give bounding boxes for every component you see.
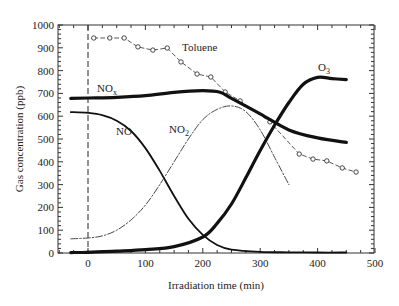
data-point-toluene — [340, 166, 344, 170]
y-tick-label: 400 — [38, 156, 55, 168]
series-line-o3 — [71, 77, 347, 252]
label-toluene: Toluene — [182, 41, 217, 53]
y-tick-label: 900 — [38, 42, 55, 54]
x-tick-label: 400 — [309, 257, 326, 269]
y-tick-label: 300 — [38, 179, 55, 191]
label-nox-main: NO — [97, 82, 113, 94]
data-point-toluene — [136, 45, 140, 49]
data-point-toluene — [108, 36, 112, 40]
label-no2-main: NO — [169, 123, 185, 135]
y-tick-label: 200 — [38, 201, 55, 213]
data-point-toluene — [209, 75, 213, 79]
data-point-toluene — [151, 48, 155, 52]
y-tick-label: 800 — [38, 65, 55, 77]
data-point-toluene — [195, 72, 199, 76]
label-o3: O3 — [318, 61, 330, 76]
y-tick-label: 0 — [49, 247, 55, 259]
x-tick-label: 200 — [195, 257, 212, 269]
y-tick-label: 500 — [38, 133, 55, 145]
y-tick-label: 600 — [38, 110, 55, 122]
series-group — [71, 36, 358, 253]
x-tick-label: 100 — [137, 257, 154, 269]
y-axis-label: Gas concentration (ppb) — [13, 86, 26, 193]
label-no: NO — [116, 125, 132, 137]
y-tick-label: 100 — [38, 224, 55, 236]
label-no2-sub: 2 — [185, 129, 189, 138]
data-point-toluene — [122, 36, 126, 40]
label-o3-sub: 3 — [326, 67, 330, 76]
gas-concentration-chart: 0100200300400500010020030040050060070080… — [0, 0, 399, 306]
label-nox: NOx — [97, 82, 117, 97]
x-tick-label: 0 — [85, 257, 91, 269]
x-axis-label: Irradiation time (min) — [168, 279, 264, 292]
y-tick-label: 1000 — [32, 19, 55, 31]
data-point-toluene — [179, 60, 183, 64]
data-point-toluene — [92, 36, 96, 40]
x-tick-label: 300 — [252, 257, 269, 269]
data-point-toluene — [311, 157, 315, 161]
label-nox-sub: x — [113, 88, 117, 97]
label-no2: NO2 — [169, 123, 189, 138]
data-point-toluene — [354, 170, 358, 174]
label-o3-main: O — [318, 61, 326, 73]
series-line-nox — [71, 91, 347, 143]
data-point-toluene — [297, 152, 301, 156]
y-tick-label: 700 — [38, 87, 55, 99]
x-tick-label: 500 — [367, 257, 384, 269]
data-point-toluene — [325, 159, 329, 163]
data-point-toluene — [165, 46, 169, 50]
series-line-toluene — [94, 38, 356, 172]
